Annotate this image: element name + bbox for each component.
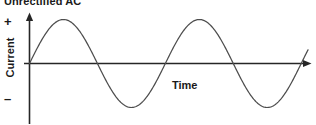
unrectified-ac-figure: Unrectified AC + – Current Time [0, 0, 316, 125]
waveform-plot [0, 0, 316, 125]
y-axis-arrow-icon [26, 13, 33, 22]
x-axis-arrow-icon [303, 60, 312, 67]
